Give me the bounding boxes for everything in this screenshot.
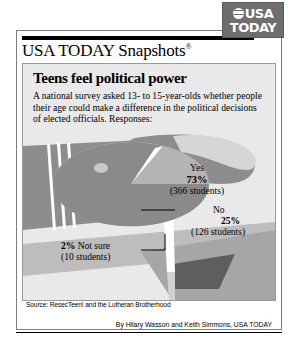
logo-usa-text: USA <box>245 7 273 20</box>
usa-today-logo: USA TODAY <box>222 2 284 38</box>
label-no-count: (126 students) <box>191 227 245 237</box>
globe-icon <box>233 8 244 19</box>
content-panel: Teens feel political power A national su… <box>22 63 276 301</box>
label-no: No 25% (126 students) <box>191 205 275 238</box>
label-yes-percent: 73% <box>187 174 208 185</box>
label-not-sure-percent: 2% <box>61 241 75 251</box>
masthead-title: USA TODAY Snapshots® <box>22 41 272 63</box>
trademark-symbol: ® <box>185 42 191 51</box>
logo-today-text: TODAY <box>230 21 276 34</box>
label-no-name: No <box>191 205 275 216</box>
label-not-sure-name: Not sure <box>78 241 110 251</box>
label-no-percent: 25% <box>191 216 275 227</box>
masthead-rule <box>22 36 254 40</box>
label-yes: Yes 73% (366 students) <box>151 163 243 197</box>
logo-top-line: USA <box>233 7 273 20</box>
label-yes-count: (366 students) <box>170 186 224 196</box>
description-text: A national survey asked 13- to 15-year-o… <box>33 90 265 125</box>
label-not-sure-count: (10 students) <box>61 252 110 262</box>
bottom-rule <box>16 332 282 333</box>
label-not-sure: 2% Not sure (10 students) <box>61 241 181 263</box>
masthead-text: USA TODAY Snapshots <box>22 41 185 60</box>
source-text: Source: ResecTeen! and the Lutheran Brot… <box>26 301 171 308</box>
byline-text: By Hilary Wasson and Keith Simmons, USA … <box>0 321 272 328</box>
page-title: Teens feel political power <box>33 70 269 87</box>
label-yes-name: Yes <box>190 163 204 173</box>
